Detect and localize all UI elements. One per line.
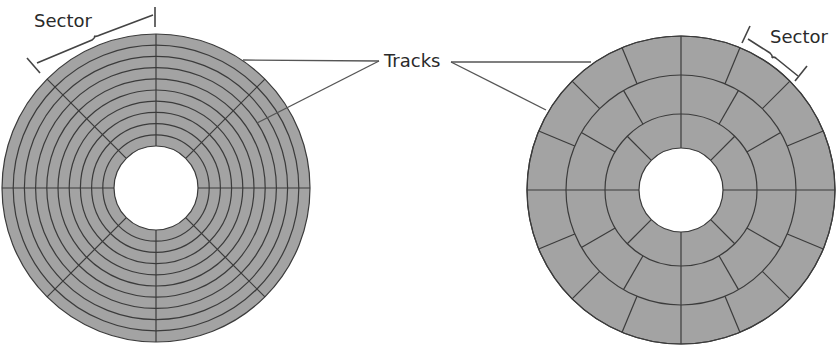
tracks-leader-left-outer	[243, 60, 379, 61]
spindle-hole	[114, 146, 198, 230]
left-disk-fixed-sectors	[2, 34, 310, 342]
tracks-leader-right-inner	[451, 62, 546, 110]
disk-layout-diagram: Sector Tracks Sector	[0, 0, 837, 356]
sector-label-right: Sector	[770, 28, 828, 46]
right-disk-zoned-sectors	[527, 36, 835, 344]
tracks-label: Tracks	[384, 52, 440, 70]
sector-label-left: Sector	[34, 12, 92, 30]
spindle-hole	[639, 148, 723, 232]
